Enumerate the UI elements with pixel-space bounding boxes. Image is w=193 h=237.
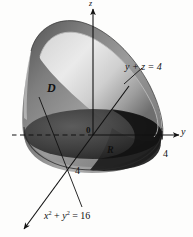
origin-label: 0	[86, 126, 91, 135]
tick-label-x-4: 4	[75, 166, 80, 176]
region-label-d: D	[47, 82, 56, 94]
cyl-equals: = 16	[70, 210, 91, 221]
equation-label-cylinder: x2 + y2 = 16	[44, 210, 90, 221]
axis-label-y: y	[181, 127, 185, 137]
cyl-plus: +	[52, 210, 63, 221]
equation-label-plane: y + z = 4	[125, 62, 162, 72]
figure-canvas	[0, 0, 193, 237]
tick-label-y-4: 4	[163, 149, 168, 159]
axis-label-z: z	[89, 0, 92, 8]
region-label-r: R	[107, 145, 114, 155]
solid-region-figure: z y 0 D R 4 4 y + z = 4 x2 + y2 = 16	[0, 0, 193, 237]
